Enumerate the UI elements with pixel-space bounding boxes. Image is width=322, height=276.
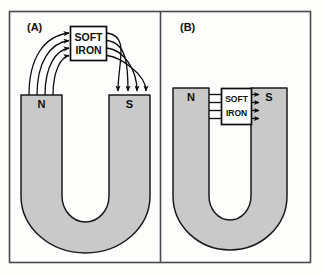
soft-iron-box-b-line1: SOFT [225,94,248,104]
panel-label-b: (B) [180,21,196,33]
pole-label-b-south: S [265,91,272,103]
soft-iron-box-b-line2: IRON [226,108,247,118]
pole-label-b-north: N [187,91,195,103]
figure-container: SOFT IRON N S (A) [0,0,322,276]
soft-iron-box-a-line2: IRON [75,44,101,56]
magnet-field-diagram: SOFT IRON N S (A) [0,0,322,276]
panel-label-a: (A) [27,21,43,33]
soft-iron-box-a-line1: SOFT [75,31,104,43]
pole-label-a-south: S [126,98,133,110]
pole-label-a-north: N [38,98,46,110]
